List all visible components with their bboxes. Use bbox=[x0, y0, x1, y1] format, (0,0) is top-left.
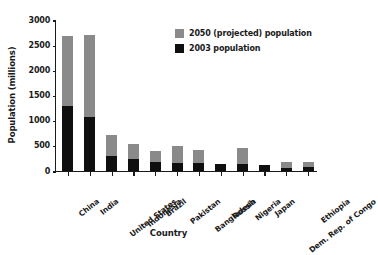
bar-segment-current[interactable] bbox=[303, 167, 314, 171]
chart-legend: 2050 (projected) population2003 populati… bbox=[175, 27, 312, 57]
bar-segment-current[interactable] bbox=[281, 168, 292, 171]
bar-group[interactable] bbox=[62, 20, 73, 171]
x-tick-mark bbox=[243, 172, 244, 176]
x-tick-mark bbox=[112, 172, 113, 176]
x-tick-label: India bbox=[98, 197, 120, 217]
x-tick-mark bbox=[155, 172, 156, 176]
y-tick-label: 0 bbox=[45, 167, 50, 176]
bar-group[interactable] bbox=[128, 20, 139, 171]
bar-segment-projected[interactable] bbox=[84, 35, 95, 117]
bar-segment-current[interactable] bbox=[237, 164, 248, 171]
x-tick-mark bbox=[68, 172, 69, 176]
y-tick-label: 1000 bbox=[29, 116, 50, 125]
x-tick-mark bbox=[199, 172, 200, 176]
bar-segment-projected[interactable] bbox=[193, 150, 204, 163]
bar-segment-current[interactable] bbox=[259, 165, 270, 171]
bar-segment-current[interactable] bbox=[193, 163, 204, 171]
legend-label: 2003 population bbox=[189, 44, 260, 53]
legend-swatch-icon bbox=[175, 29, 184, 38]
x-tick-mark bbox=[90, 172, 91, 176]
x-tick-mark bbox=[286, 172, 287, 176]
y-tick-label: 1500 bbox=[29, 91, 50, 100]
legend-item[interactable]: 2050 (projected) population bbox=[175, 27, 312, 40]
bar-segment-projected[interactable] bbox=[237, 148, 248, 164]
bar-segment-current[interactable] bbox=[128, 159, 139, 171]
x-tick-mark bbox=[308, 172, 309, 176]
legend-label: 2050 (projected) population bbox=[189, 29, 312, 38]
bar-segment-current[interactable] bbox=[62, 106, 73, 171]
x-axis-title: Country bbox=[0, 228, 337, 238]
bar-segment-projected[interactable] bbox=[128, 144, 139, 160]
y-tick-label: 2000 bbox=[29, 66, 50, 75]
x-tick-mark bbox=[221, 172, 222, 176]
x-tick-mark bbox=[177, 172, 178, 176]
bar-segment-projected[interactable] bbox=[172, 146, 183, 164]
bar-segment-current[interactable] bbox=[172, 163, 183, 171]
legend-item[interactable]: 2003 population bbox=[175, 42, 312, 55]
bar-group[interactable] bbox=[84, 20, 95, 171]
bar-segment-current[interactable] bbox=[106, 156, 117, 171]
bar-segment-current[interactable] bbox=[215, 164, 226, 171]
bar-segment-current[interactable] bbox=[84, 117, 95, 171]
y-tick-mark bbox=[53, 171, 57, 172]
bar-segment-projected[interactable] bbox=[62, 36, 73, 105]
y-tick-label: 3000 bbox=[29, 16, 50, 25]
bar-group[interactable] bbox=[150, 20, 161, 171]
bar-group[interactable] bbox=[106, 20, 117, 171]
x-tick-label: Pakistan bbox=[189, 197, 223, 226]
bar-segment-current[interactable] bbox=[150, 162, 161, 171]
bar-segment-projected[interactable] bbox=[106, 135, 117, 157]
x-tick-mark bbox=[264, 172, 265, 176]
legend-swatch-icon bbox=[175, 44, 184, 53]
y-tick-label: 2500 bbox=[29, 41, 50, 50]
x-tick-label: China bbox=[77, 197, 101, 218]
y-axis-title: Population (millions) bbox=[5, 20, 19, 170]
bar-segment-projected[interactable] bbox=[150, 151, 161, 162]
x-tick-mark bbox=[133, 172, 134, 176]
y-tick-label: 500 bbox=[34, 141, 50, 150]
